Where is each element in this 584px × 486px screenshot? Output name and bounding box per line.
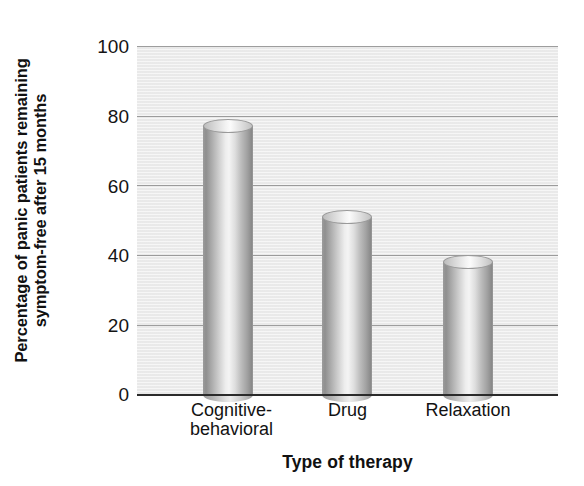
bar-body xyxy=(203,126,253,395)
bar-relaxation[interactable] xyxy=(443,255,493,395)
x-axis-line xyxy=(137,394,558,396)
y-tick-80: 80 xyxy=(83,107,129,126)
gridline-60 xyxy=(137,185,558,186)
y-tick-20: 20 xyxy=(83,316,129,335)
plot-area xyxy=(137,46,558,395)
y-tick-0: 0 xyxy=(83,385,129,404)
x-tick-line-2: behavioral xyxy=(155,420,308,439)
x-axis-title: Type of therapy xyxy=(137,452,558,473)
bar-drug[interactable] xyxy=(322,210,372,395)
y-tick-60: 60 xyxy=(83,177,129,196)
y-axis-tick-labels: 100 80 60 40 20 0 xyxy=(77,0,129,486)
x-tick-relaxation: Relaxation xyxy=(403,401,533,420)
chart-figure: Percentage of panic patients remaining s… xyxy=(0,0,584,486)
x-tick-drug: Drug xyxy=(310,401,385,420)
y-tick-40: 40 xyxy=(83,246,129,265)
y-axis-title: Percentage of panic patients remaining s… xyxy=(0,0,62,420)
x-tick-cognitive-behavioral: Cognitive- behavioral xyxy=(155,401,308,440)
x-tick-line-1: Drug xyxy=(310,401,385,420)
y-tick-100: 100 xyxy=(83,37,129,56)
y-axis-title-text: Percentage of panic patients remaining s… xyxy=(12,58,51,362)
bar-body xyxy=(443,262,493,395)
bar-top-ellipse xyxy=(322,210,372,224)
gridline-80 xyxy=(137,116,558,117)
x-tick-line-1: Cognitive- xyxy=(155,401,308,420)
y-axis-title-line-1: Percentage of panic patients remaining xyxy=(12,58,31,362)
x-tick-line-1: Relaxation xyxy=(403,401,533,420)
bar-body xyxy=(322,217,372,395)
gridline-100 xyxy=(137,46,558,47)
bar-cognitive-behavioral[interactable] xyxy=(203,119,253,395)
y-axis-title-line-2: symptom-free after 15 months xyxy=(31,58,50,362)
